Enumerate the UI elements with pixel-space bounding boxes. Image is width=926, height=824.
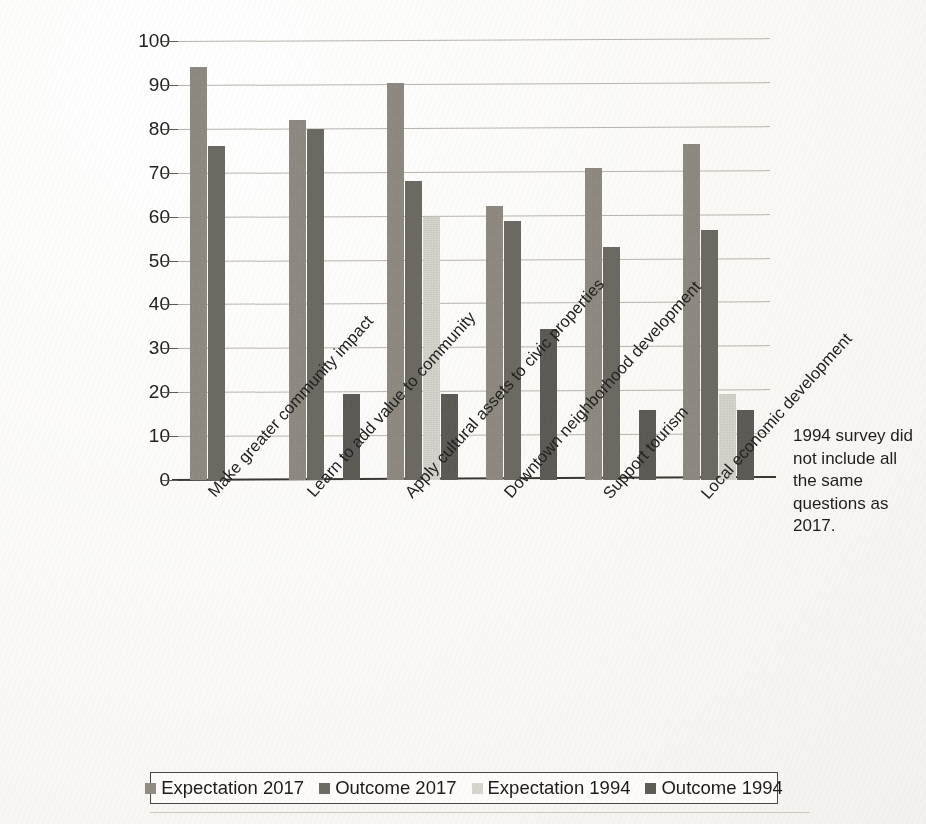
bar-texture (289, 120, 306, 480)
legend-swatch-icon (472, 783, 483, 794)
y-tick-mark-20 (162, 392, 178, 393)
bar-texture (701, 230, 718, 480)
legend-swatch-icon (319, 783, 330, 794)
legend-underline (150, 812, 810, 813)
annotation-line: not include all (793, 448, 918, 471)
bar[interactable] (701, 230, 718, 480)
annotation-line: the same (793, 470, 918, 493)
legend-item[interactable]: Outcome 1994 (645, 777, 782, 799)
bar-texture (307, 129, 324, 480)
bar-texture (405, 181, 422, 480)
legend-swatch-icon (145, 783, 156, 794)
y-tick-mark-90 (162, 85, 178, 86)
bar-texture (208, 146, 225, 480)
y-tick-mark-60 (162, 217, 178, 218)
y-tick-mark-80 (162, 129, 178, 130)
bar-texture (387, 83, 404, 480)
bar-texture (683, 144, 700, 480)
bar[interactable] (585, 168, 602, 480)
bar[interactable] (387, 83, 404, 480)
bar[interactable] (683, 144, 700, 480)
y-tick-mark-40 (162, 304, 178, 305)
y-tick-mark-30 (162, 348, 178, 349)
bar-texture (585, 168, 602, 480)
bar[interactable] (307, 129, 324, 480)
legend-label: Outcome 2017 (335, 777, 456, 799)
chart-annotation: 1994 survey didnot include allthe samequ… (793, 425, 918, 538)
bar-chart: 0102030405060708090100 Make greater comm… (0, 0, 926, 824)
legend-item[interactable]: Outcome 2017 (319, 777, 456, 799)
annotation-line: 1994 survey did (793, 425, 918, 448)
bar[interactable] (190, 67, 207, 480)
legend-item[interactable]: Expectation 2017 (145, 777, 304, 799)
bar[interactable] (504, 221, 521, 480)
bar-group (178, 41, 277, 480)
bar-texture (504, 221, 521, 480)
legend-label: Expectation 2017 (161, 777, 304, 799)
legend-label: Outcome 1994 (661, 777, 782, 799)
y-tick-mark-50 (162, 261, 178, 262)
legend-item[interactable]: Expectation 1994 (472, 777, 631, 799)
bar[interactable] (289, 120, 306, 480)
y-tick-mark-10 (162, 436, 178, 437)
y-tick-mark-70 (162, 173, 178, 174)
bar-texture (190, 67, 207, 480)
chart-legend: Expectation 2017Outcome 2017Expectation … (150, 772, 778, 804)
bar[interactable] (208, 146, 225, 480)
bar[interactable] (405, 181, 422, 480)
annotation-line: questions as (793, 493, 918, 516)
bar-texture (486, 206, 503, 480)
y-tick-mark-100 (162, 41, 178, 42)
y-tick-mark-0 (162, 480, 178, 481)
annotation-line: 2017. (793, 515, 918, 538)
legend-swatch-icon (645, 783, 656, 794)
legend-label: Expectation 1994 (488, 777, 631, 799)
bar[interactable] (486, 206, 503, 480)
